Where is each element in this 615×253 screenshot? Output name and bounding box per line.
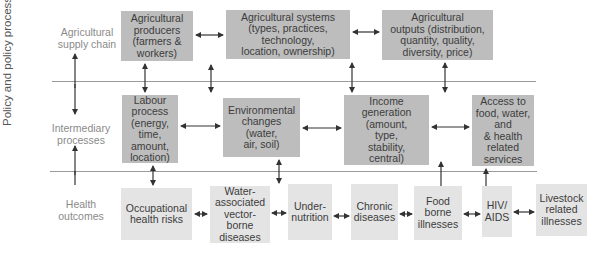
connector-arrows xyxy=(0,0,615,253)
